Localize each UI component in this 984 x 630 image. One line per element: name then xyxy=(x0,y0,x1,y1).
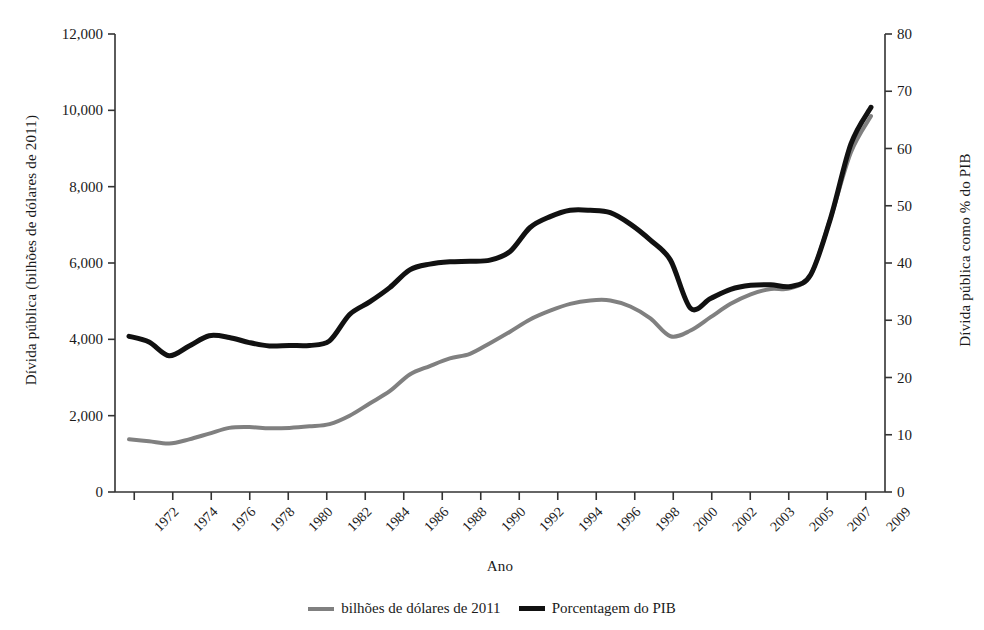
x-axis-tick-labels: 1972197419761978198019821984198619881990… xyxy=(0,0,984,630)
x-axis-tick: 1974 xyxy=(190,504,221,535)
x-axis-tick: 1998 xyxy=(652,504,683,535)
x-axis-tick: 1982 xyxy=(344,504,375,535)
x-axis-tick: 2009 xyxy=(883,504,914,535)
chart-figure: Dívida pública (bilhões de dólares de 20… xyxy=(0,0,984,630)
x-axis-tick: 1980 xyxy=(305,504,336,535)
x-axis-tick: 1994 xyxy=(575,504,606,535)
legend-item[interactable]: Porcentagem do PIB xyxy=(519,600,676,617)
x-axis-tick: 1972 xyxy=(151,504,182,535)
legend-label: Porcentagem do PIB xyxy=(552,600,676,617)
x-axis-tick: 1988 xyxy=(459,504,490,535)
x-axis-tick: 2005 xyxy=(806,504,837,535)
x-axis-tick: 1986 xyxy=(421,504,452,535)
legend-label: bilhões de dólares de 2011 xyxy=(341,600,500,617)
x-axis-tick: 2007 xyxy=(844,504,875,535)
x-axis-tick: 2002 xyxy=(729,504,760,535)
chart-legend: bilhões de dólares de 2011Porcentagem do… xyxy=(0,600,984,617)
x-axis-tick: 1984 xyxy=(382,504,413,535)
x-axis-tick: 1996 xyxy=(613,504,644,535)
legend-item[interactable]: bilhões de dólares de 2011 xyxy=(308,600,500,617)
x-axis-tick: 1978 xyxy=(267,504,298,535)
legend-swatch-icon xyxy=(308,607,334,611)
legend-swatch-icon xyxy=(519,606,545,611)
x-axis-tick: 1992 xyxy=(536,504,567,535)
x-axis-tick: 2003 xyxy=(767,504,798,535)
x-axis-tick: 1990 xyxy=(498,504,529,535)
x-axis-tick: 1976 xyxy=(228,504,259,535)
x-axis-tick: 2000 xyxy=(690,504,721,535)
